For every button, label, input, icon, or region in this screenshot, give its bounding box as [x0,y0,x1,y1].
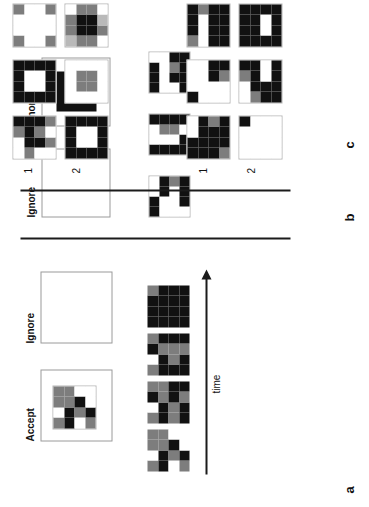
grid-cell [158,344,169,355]
grid-cell [97,71,108,82]
grid-cell [74,407,85,418]
grid-cell [219,4,230,15]
grid-cell [86,36,97,47]
grid-cell [13,137,24,148]
grid-cell [65,25,76,36]
grid-cell [187,60,198,71]
grid-cell [13,92,24,103]
grid-cell [76,36,87,47]
grid-cell [97,127,108,138]
grid-cell [64,397,75,408]
grid-cell [179,296,190,307]
grid-cell [168,296,179,307]
grid-cell [187,36,198,47]
grid-cell [76,92,87,103]
grid-cell [76,4,87,15]
grid-cell [179,413,190,424]
grid-cell [34,92,45,103]
grid-cell [147,450,158,461]
grid-cell [13,60,24,71]
grid-cell [64,418,75,429]
grid-cell [65,137,76,148]
grid-cell [159,206,169,216]
grid-cell [149,134,159,144]
grid-cell [147,365,158,376]
grid-cell [45,71,56,82]
grid-cell [239,60,250,71]
grid-cell [260,81,271,92]
grid-cell [168,450,179,461]
grid-cell [13,71,24,82]
grid-cell [168,429,179,440]
grid-cell [76,137,87,148]
grid-cell [198,127,209,138]
grid-cell [76,15,87,26]
grid-cell [219,60,230,71]
grid-cell [219,15,230,26]
grid-cell [85,407,96,418]
grid-cell [271,36,282,47]
panel-d-row2-grid-1 [64,115,108,159]
grid-cell [45,127,56,138]
grid-cell [74,397,85,408]
panel-c-column-label-1: 1 [197,167,208,173]
grid-cell [97,116,108,127]
grid-cell [64,386,75,397]
grid-cell [45,36,56,47]
grid-cell [239,81,250,92]
panel-d-row2-grid-2 [64,59,108,103]
grid-cell [179,285,190,296]
grid-cell [250,137,261,148]
grid-cell [239,4,250,15]
panel-b-grid-3 [148,51,190,93]
grid-cell [97,36,108,47]
grid-cell [219,92,230,103]
grid-cell [149,52,159,62]
grid-cell [208,92,219,103]
grid-cell [158,381,169,392]
grid-cell [13,81,24,92]
grid-cell [179,333,190,344]
grid-cell [187,4,198,15]
grid-cell [260,127,271,138]
grid-cell [168,365,179,376]
grid-cell [74,418,85,429]
grid-cell [24,60,35,71]
grid-cell [208,60,219,71]
grid-cell [187,148,198,159]
panel-d-row2-grid-3 [64,3,108,47]
grid-cell [158,354,169,365]
grid-cell [159,144,169,154]
grid-cell [24,116,35,127]
grid-cell [271,60,282,71]
grid-cell [65,127,76,138]
grid-cell [158,450,169,461]
grid-cell [271,81,282,92]
panel-c-row1-grid-2 [186,59,230,103]
grid-cell [86,137,97,148]
grid-cell [198,92,209,103]
grid-cell [65,4,76,15]
grid-cell [158,392,169,403]
grid-cell [168,333,179,344]
grid-cell [45,60,56,71]
grid-cell [147,392,158,403]
grid-cell [198,25,209,36]
grid-cell [260,15,271,26]
grid-cell [250,36,261,47]
grid-cell [250,116,261,127]
grid-cell [158,402,169,413]
grid-cell [76,60,87,71]
panel-b-grid-1 [148,175,190,217]
grid-cell [219,81,230,92]
grid-cell [198,36,209,47]
grid-cell [208,137,219,148]
grid-cell [198,71,209,82]
grid-cell [45,116,56,127]
grid-cell [239,15,250,26]
grid-cell [76,71,87,82]
grid-cell [179,365,190,376]
grid-cell [147,296,158,307]
grid-cell [169,114,179,124]
grid-cell [147,381,158,392]
